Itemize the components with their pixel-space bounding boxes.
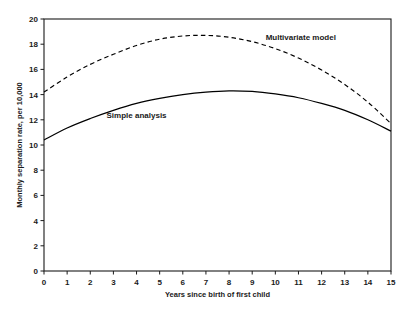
- x-tick-label: 11: [294, 278, 303, 287]
- y-tick-label: 12: [29, 116, 38, 125]
- chart-svg: 02468101214161820 0123456789101112131415…: [0, 0, 413, 314]
- x-tick-label: 5: [157, 278, 162, 287]
- x-tick-label: 6: [181, 278, 186, 287]
- x-tick-label: 10: [271, 278, 280, 287]
- chart-figure: 02468101214161820 0123456789101112131415…: [0, 0, 413, 314]
- x-tick-label: 3: [111, 278, 116, 287]
- x-tick-label: 15: [387, 278, 396, 287]
- y-tick-label: 16: [29, 65, 38, 74]
- series-annotation-0: Multivariate model: [266, 33, 336, 42]
- y-tick-label: 18: [29, 40, 38, 49]
- x-tick-label: 12: [317, 278, 326, 287]
- x-axis-title: Years since birth of first child: [165, 290, 270, 299]
- chart-background: [0, 0, 413, 314]
- series-annotation-1: Simple analysis: [107, 111, 168, 120]
- y-tick-label: 6: [34, 191, 39, 200]
- x-tick-label: 7: [204, 278, 209, 287]
- x-tick-label: 13: [340, 278, 349, 287]
- x-tick-label: 14: [363, 278, 372, 287]
- x-tick-label: 0: [42, 278, 47, 287]
- y-tick-label: 2: [34, 242, 39, 251]
- x-tick-label: 9: [250, 278, 255, 287]
- y-tick-label: 20: [29, 15, 38, 24]
- y-tick-label: 4: [34, 217, 39, 226]
- y-tick-label: 0: [34, 267, 39, 276]
- y-tick-label: 10: [29, 141, 38, 150]
- y-axis-title: Monthly separation rate, per 10,000: [15, 82, 24, 207]
- x-tick-label: 2: [88, 278, 93, 287]
- x-tick-label: 8: [227, 278, 232, 287]
- y-tick-label: 8: [34, 166, 39, 175]
- x-tick-label: 1: [65, 278, 70, 287]
- y-tick-label: 14: [29, 91, 38, 100]
- x-tick-label: 4: [134, 278, 139, 287]
